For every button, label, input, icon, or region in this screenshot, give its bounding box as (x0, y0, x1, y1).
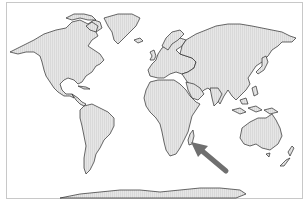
australia (240, 114, 282, 150)
cuba (78, 86, 90, 89)
arctic-islands (66, 14, 96, 20)
tasmania (266, 153, 270, 157)
antarctica (60, 188, 246, 198)
central-america (72, 94, 86, 106)
world-map (0, 0, 308, 203)
south-america (80, 104, 114, 174)
indonesia (232, 98, 278, 114)
united-kingdom (150, 50, 156, 60)
philippines (252, 86, 258, 96)
new-zealand (280, 146, 294, 166)
iceland (134, 38, 143, 43)
north-america (10, 20, 104, 98)
arrow-icon (191, 142, 226, 171)
